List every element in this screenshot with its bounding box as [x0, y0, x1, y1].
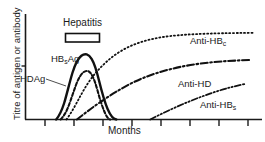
hbsag-label-tail: Ag	[68, 53, 80, 64]
plot-area	[0, 0, 265, 142]
anti-hbc-label-sub: c	[223, 40, 226, 47]
anti-hd-series-label: Anti-HD	[178, 79, 211, 89]
hbsag-label-sub: s	[64, 58, 67, 65]
hdag-leader-line	[46, 79, 66, 86]
anti-hbs-series-label: Anti-HBs	[200, 100, 236, 110]
x-axis-ticks	[45, 120, 248, 127]
hepatitis-label: Hepatitis	[63, 18, 102, 28]
hbsag-series-label: HBsAg	[51, 54, 79, 64]
hbsag-label-main: HB	[51, 53, 64, 64]
anti-hbc-series-label: Anti-HBc	[190, 36, 226, 46]
y-axis-label: Titre of antigen or antibody	[12, 6, 22, 122]
hepatitis-bar	[66, 34, 100, 43]
anti-hbc-label-main: Anti-HB	[190, 35, 223, 46]
hdag-series-label: HDAg	[20, 74, 45, 84]
hepatitis-serology-figure: Titre of antigen or antibody Months Hepa…	[0, 0, 265, 142]
x-axis-label: Months	[108, 126, 141, 136]
anti-hbs-label-main: Anti-HB	[200, 99, 233, 110]
anti-hbs-label-sub: s	[233, 104, 236, 111]
